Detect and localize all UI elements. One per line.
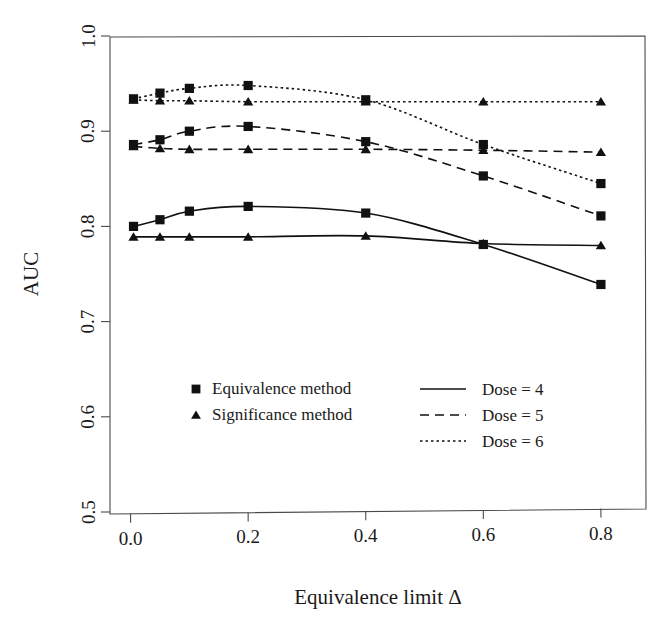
x-axis-title: Equivalence limit Δ xyxy=(294,585,461,609)
data-point-square xyxy=(596,211,605,220)
data-point-square xyxy=(129,222,138,231)
y-tick-label: 0.5 xyxy=(78,500,99,524)
x-tick-label: 0.8 xyxy=(589,523,613,544)
x-tick-label: 0.6 xyxy=(471,524,495,545)
data-point-square xyxy=(155,215,164,224)
data-point-square xyxy=(361,208,370,217)
y-tick-label: 1.0 xyxy=(78,24,99,48)
y-tick-label: 0.8 xyxy=(78,215,99,239)
legend-line-label: Dose = 4 xyxy=(482,380,544,399)
data-point-square xyxy=(185,84,194,93)
data-point-square xyxy=(244,81,253,90)
data-point-square xyxy=(244,202,253,211)
legend-marker-label: Equivalence method xyxy=(212,379,352,398)
y-tick-label: 0.6 xyxy=(78,405,99,429)
y-axis-title: AUC xyxy=(19,252,43,296)
y-tick-label: 0.7 xyxy=(78,310,99,334)
data-point-square xyxy=(596,179,605,188)
data-point-square xyxy=(192,385,201,394)
chart-background xyxy=(0,0,667,629)
data-point-square xyxy=(596,280,605,289)
data-point-square xyxy=(185,127,194,136)
legend-line-label: Dose = 5 xyxy=(482,406,544,425)
data-point-square xyxy=(479,140,488,149)
x-tick-label: 0.4 xyxy=(354,525,378,546)
data-point-square xyxy=(185,207,194,216)
x-tick-label: 0.2 xyxy=(236,526,260,547)
x-tick-label: 0.0 xyxy=(119,528,143,549)
chart-canvas: 0.00.20.40.60.8 0.50.60.70.80.91.0 Equiv… xyxy=(0,0,667,629)
legend-marker-label: Significance method xyxy=(212,405,353,424)
data-point-square xyxy=(244,122,253,131)
legend-line-label: Dose = 6 xyxy=(482,432,544,451)
auc-vs-equivalence-limit-figure: 0.00.20.40.60.8 0.50.60.70.80.91.0 Equiv… xyxy=(0,0,667,629)
data-point-square xyxy=(479,171,488,180)
data-point-square xyxy=(155,135,164,144)
y-tick-label: 0.9 xyxy=(78,119,99,143)
